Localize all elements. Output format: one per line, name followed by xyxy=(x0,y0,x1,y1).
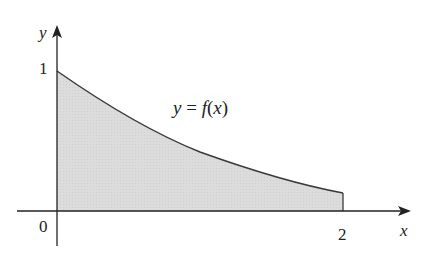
origin-label: 0 xyxy=(39,217,48,236)
x-axis-label: x xyxy=(399,221,408,240)
area-under-curve-diagram: y 1 0 2 x y = f(x) xyxy=(0,0,428,261)
shaded-area xyxy=(57,71,343,211)
y-tick-label-1: 1 xyxy=(39,59,48,78)
function-label: y = f(x) xyxy=(171,97,228,119)
x-tick-label-2: 2 xyxy=(338,225,347,244)
y-axis-label: y xyxy=(37,23,47,42)
